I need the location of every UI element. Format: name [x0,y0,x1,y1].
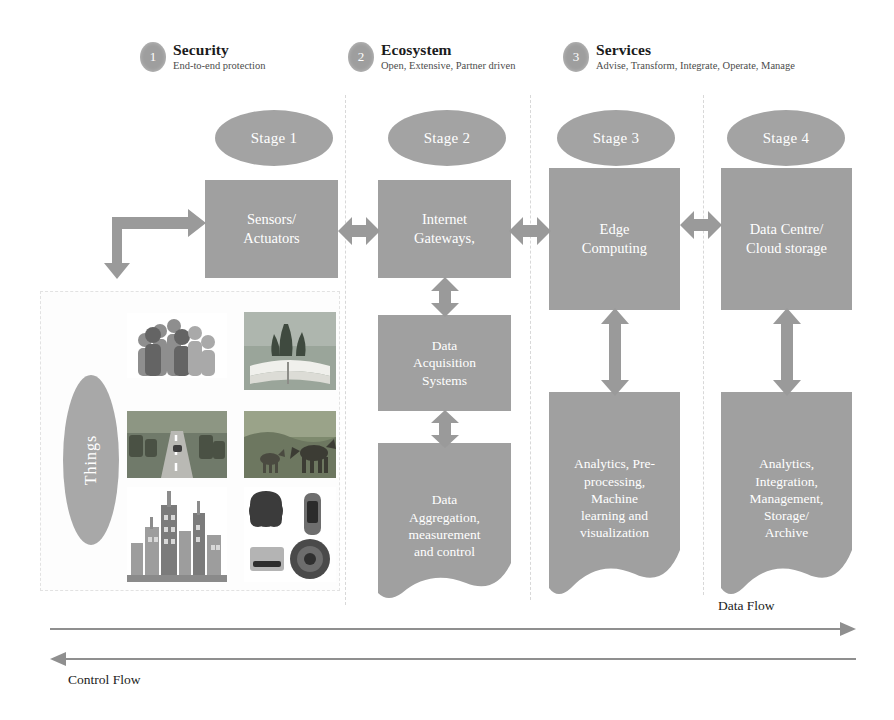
pillar-title-services: Services [596,42,795,58]
pillar-subtitle-ecosystem: Open, Extensive, Partner driven [381,60,515,72]
box-data-acquisition-systems: DataAcquisitionSystems [378,315,511,411]
pillar-badge-3: 3 [563,42,589,72]
stage-label-4: Stage 4 [763,130,810,147]
photo-road-traffic [127,411,227,478]
control-flow-label: Control Flow [68,672,140,688]
box-edge-analytics: Analytics, Pre-processing,Machinelearnin… [549,392,680,597]
box-label-gateways: InternetGateways, [414,210,475,247]
stage-label-2: Stage 2 [424,130,471,147]
pillar-title-security: Security [173,42,265,58]
stage-ellipse-2: Stage 2 [388,110,506,166]
box-internet-gateways: InternetGateways, [378,180,511,278]
pillar-title-ecosystem: Ecosystem [381,42,515,58]
box-label-sensors: Sensors/Actuators [243,210,299,247]
arrow-acquisition-to-aggregation [428,410,462,448]
control-flow-arrow [50,652,856,670]
arrow-gateways-to-acquisition [428,277,462,317]
pillar-subtitle-services: Advise, Transform, Integrate, Operate, M… [596,60,795,72]
stage-ellipse-1: Stage 1 [215,110,333,166]
box-sensors-actuators: Sensors/Actuators [205,180,338,278]
pillar-badge-1: 1 [140,42,166,72]
pillar-security: 1 Security End-to-end protection [140,42,265,72]
arrow-edge-to-edge-analytics [598,308,632,396]
pillar-ecosystem: 2 Ecosystem Open, Extensive, Partner dri… [348,42,515,72]
column-separator-1 [345,95,346,605]
column-separator-2 [530,95,531,600]
things-ellipse: Things [63,375,119,545]
arrow-gateways-to-edge [509,211,551,251]
box-cloud-analytics: Analytics,Integration,Management,Storage… [721,392,852,597]
box-data-centre-cloud-storage: Data Centre/Cloud storage [721,168,852,310]
box-data-aggregation: DataAggregation,measurementand control [378,443,511,601]
arrow-sensors-to-gateways [338,211,380,251]
stage-ellipse-3: Stage 3 [557,110,675,166]
column-separator-3 [703,95,704,595]
box-label-aggregation: DataAggregation,measurementand control [378,483,511,560]
data-flow-arrow [50,622,856,640]
stage-label-3: Stage 3 [593,130,640,147]
box-label-edge: EdgeComputing [582,220,647,257]
data-flow-label: Data Flow [718,598,775,614]
pillar-subtitle-security: End-to-end protection [173,60,265,72]
photo-wearable-devices [244,487,336,582]
photo-open-book-tree [244,312,336,390]
photo-city-skyline [127,487,227,582]
photo-animals [244,411,336,478]
pillar-badge-2: 2 [348,42,374,72]
arrow-edge-to-datacentre [680,205,722,245]
box-label-acquisition: DataAcquisitionSystems [413,337,476,389]
things-label: Things [82,435,100,485]
stage-ellipse-4: Stage 4 [727,110,845,166]
feedback-elbow-arrow [100,195,212,285]
box-label-datacentre: Data Centre/Cloud storage [746,220,827,257]
box-label-edge-analytics: Analytics, Pre-processing,Machinelearnin… [549,447,680,541]
photo-people-group [127,313,227,378]
pillar-services: 3 Services Advise, Transform, Integrate,… [563,42,795,72]
stage-label-1: Stage 1 [251,130,298,147]
box-label-cloud-analytics: Analytics,Integration,Management,Storage… [721,447,852,541]
box-edge-computing: EdgeComputing [549,168,680,310]
arrow-datacentre-to-cloud-analytics [770,308,804,396]
